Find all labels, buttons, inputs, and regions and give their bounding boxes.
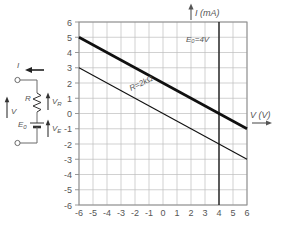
circuit-resistor-label: R [25,94,31,103]
circuit-source-label: E0 [18,120,27,130]
x-tick-label: -2 [131,208,139,218]
y-axis-arrow-icon [188,4,193,21]
circuit-diagram: I R VR [5,61,63,146]
y-tick-label: -5 [64,185,72,195]
vr-arrow-icon [46,93,51,111]
x-tick-label: -3 [117,208,125,218]
y-tick-label: 3 [67,63,72,73]
circuit-terminal-voltage-label: V [11,107,17,116]
x-tick-label: 5 [230,208,235,218]
vr-subscript: R [57,101,62,107]
annotation-e0-label: E₀=4V [186,35,210,44]
figure-root: I (mA) V (V) -6 -5 -4 -3 -2 -1 0 1 2 3 4… [0,0,285,231]
y-tick-labels: 6 5 4 3 2 1 0 -1 -2 -3 -4 -5 -6 [64,18,72,211]
x-tick-label: 6 [244,208,249,218]
x-tick-label: 4 [216,208,221,218]
current-arrow-icon [25,67,44,73]
e0-subscript: 0 [23,124,27,130]
top-terminal-icon [15,77,20,82]
x-tick-label: -6 [75,208,83,218]
y-tick-label: -2 [64,140,72,150]
x-tick-label: 1 [174,208,179,218]
annotation-r-label: R=2kΩ [128,74,154,93]
y-axis-ticks [75,22,79,205]
y-tick-label: 0 [67,109,72,119]
x-tick-label: 0 [160,208,165,218]
ve-arrow-icon [46,120,51,138]
y-tick-label: -1 [64,124,72,134]
x-tick-label: 3 [202,208,207,218]
battery-icon [30,123,44,127]
x-tick-labels: -6 -5 -4 -3 -2 -1 0 1 2 3 4 5 6 [75,208,250,218]
x-tick-label: 2 [188,208,193,218]
x-tick-label: -4 [103,208,111,218]
circuit-current-label: I [17,61,20,70]
x-tick-label: -5 [89,208,97,218]
resistor-icon [33,93,41,112]
y-tick-label: 2 [67,79,72,89]
x-axis-label: V (V) [250,110,271,120]
y-axis-label: I (mA) [195,8,220,18]
y-tick-label: -4 [64,170,72,180]
y-tick-label: -3 [64,155,72,165]
x-axis-arrow-icon [252,120,272,125]
circuit-resistor-voltage-label: VR [52,97,62,107]
x-tick-label: -1 [145,208,153,218]
circuit-source-voltage-label: VE [52,124,62,134]
bottom-terminal-icon [15,140,20,145]
graph-figure: I (mA) V (V) -6 -5 -4 -3 -2 -1 0 1 2 3 4… [0,0,285,231]
y-tick-label: 6 [67,18,72,28]
y-tick-label: 5 [67,33,72,43]
y-tick-label: -6 [64,201,72,211]
terminal-voltage-arrow-icon [5,97,10,119]
ve-subscript: E [57,128,62,134]
y-tick-label: 4 [67,48,72,58]
y-tick-label: 1 [67,94,72,104]
